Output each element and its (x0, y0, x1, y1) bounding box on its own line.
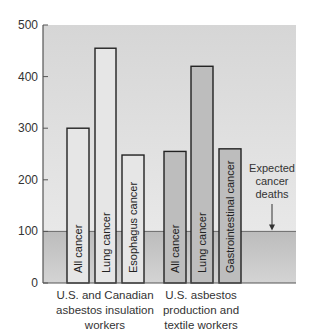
y-tick-label: 500 (18, 18, 38, 32)
bar-label: Lung cancer (100, 212, 112, 273)
bar-label: All cancer (169, 224, 181, 273)
y-tick-label: 400 (18, 70, 38, 84)
group-label: U.S. and Canadian (56, 289, 153, 301)
expected-deaths-annotation: cancer (255, 175, 288, 187)
y-tick-label: 100 (18, 224, 38, 238)
y-tick-label: 0 (31, 276, 38, 290)
group-label: textile workers (164, 319, 238, 331)
bar-chart: All cancerLung cancerEsophagus cancerAll… (0, 0, 314, 335)
group-label: production and (163, 304, 239, 316)
y-tick-label: 200 (18, 173, 38, 187)
group-label: U.S. asbestos (165, 289, 237, 301)
bar-label: Esophagus cancer (127, 182, 139, 273)
bar-label: Gastrointestinal cancer (224, 160, 236, 273)
group-label: workers (84, 319, 126, 331)
bar-label: All cancer (72, 224, 84, 273)
y-tick-label: 300 (18, 121, 38, 135)
bar-label: Lung cancer (196, 212, 208, 273)
expected-deaths-annotation: Expected (249, 162, 295, 174)
group-label: asbestos insulation (56, 304, 154, 316)
expected-deaths-annotation: deaths (255, 188, 289, 200)
